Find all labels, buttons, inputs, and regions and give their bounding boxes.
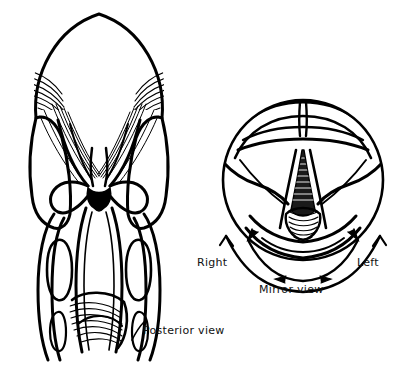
posterior-view-caption: Posterior view <box>143 324 225 337</box>
mirror-view-caption: Mirror view <box>259 283 324 296</box>
median-glossoepiglottic-fold-left <box>299 102 300 136</box>
median-glossoepiglottic-fold-right <box>306 102 307 136</box>
mirror-view-left-label: Left <box>357 256 379 269</box>
anatomical-figure: Posterior view Right Left Mirror view <box>0 0 394 367</box>
figure-svg <box>0 0 394 367</box>
mirror-view-right-label: Right <box>197 256 227 269</box>
